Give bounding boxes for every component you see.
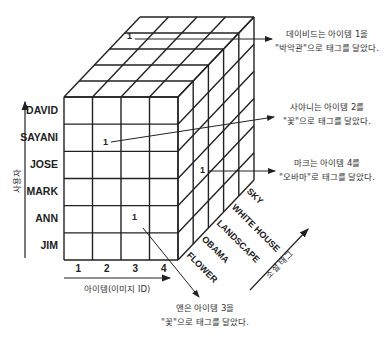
user-label-david: DAVID [8,104,58,116]
cell-value-ann: 1 [132,212,137,222]
grid-line [121,17,197,97]
item-label-4: 4 [157,263,171,274]
item-label-1: 1 [71,263,85,274]
grid-line [93,17,169,97]
item-label-2: 2 [100,263,114,274]
grid-line [64,17,140,97]
user-label-sayani: SAYANI [8,131,58,143]
item-label-3: 3 [128,263,142,274]
annotation-sayani: 사야니는 아이템 2를 "꽃"으로 태그를 달았다. [262,100,390,128]
annotation-david: 데이비드는 아이템 1을 "박악관"으로 태그를 달았다. [262,27,390,55]
grid-line [150,17,226,97]
cell-value-mark: 1 [200,165,205,175]
cell-value-sayani: 1 [103,137,108,147]
items-axis-label: 아이템(이미지 ID) [84,282,150,294]
user-label-ann: ANN [8,212,58,224]
axis-arrows [25,102,308,290]
cell-value-david: 1 [127,31,132,41]
users-axis-label: 사용자 [10,169,22,193]
annotation-mark: 마크는 아이템 4를 "오바마"로 태그를 달았다. [262,156,390,184]
annotation-ann: 앤은 아이템 3을 "꽃"으로 태그를 달았다. [140,301,270,329]
user-label-jim: JIM [8,239,58,251]
